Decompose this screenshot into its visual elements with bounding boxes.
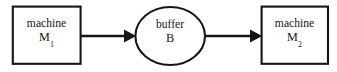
flow-diagram: machine M1 buffer B machine M2: [0, 0, 337, 72]
edge-machine1-to-buffer: [81, 29, 137, 42]
node-buffer-label-line1: buffer: [135, 19, 205, 31]
node-machine-1-label-base: M: [39, 30, 50, 44]
node-buffer-label-line2: B: [135, 32, 205, 48]
node-machine-2-label-base: M: [287, 30, 298, 44]
node-machine-1-label-subscript: 1: [50, 40, 54, 49]
node-machine-1-label: machine M1: [12, 18, 81, 47]
node-buffer-label-base: B: [166, 31, 174, 45]
node-machine-1-label-line1: machine: [12, 18, 81, 30]
node-machine-2-label-subscript: 2: [298, 40, 302, 49]
node-machine-2-label-line1: machine: [261, 18, 328, 30]
node-buffer-label: buffer B: [135, 19, 205, 48]
node-machine-1-label-line2: M1: [12, 31, 81, 47]
edge-buffer-to-machine2: [205, 29, 262, 42]
node-machine-2-label-line2: M2: [261, 31, 328, 47]
node-machine-2-label: machine M2: [261, 18, 328, 47]
